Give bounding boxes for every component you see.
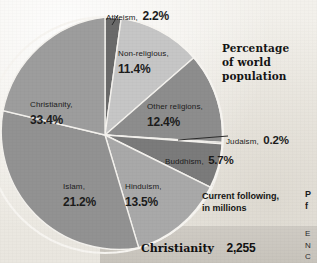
- slice-percent-non-religious: 11.4%: [118, 62, 150, 76]
- chart-heading-line-3: population: [222, 70, 289, 84]
- clipped-row-3: C: [305, 251, 317, 262]
- table-note-line-2: in millions: [202, 202, 279, 214]
- clipped-header-line-2: f: [305, 201, 317, 213]
- slice-name-judaism: Judaism: [226, 137, 257, 146]
- infographic-page: Atheism, 2.2% Non-religious, 11.4% Chris…: [0, 0, 317, 263]
- slice-percent-atheism: 2.2%: [142, 9, 169, 23]
- table-note-line-1: Current following,: [202, 190, 279, 202]
- slice-name-christianity: Christianity: [30, 100, 70, 109]
- chart-heading: Percentage of world population: [222, 42, 289, 84]
- slice-name-atheism: Atheism: [106, 13, 136, 22]
- slice-name-other-religions: Other religions: [147, 102, 201, 111]
- slice-name-hinduism: Hinduism: [125, 182, 159, 191]
- slice-percent-judaism: 0.2%: [263, 134, 288, 146]
- slice-percent-other-religions: 12.4%: [147, 115, 180, 129]
- slice-percent-islam: 21.2%: [63, 195, 96, 209]
- slice-label-atheism: Atheism, 2.2%: [106, 6, 169, 23]
- table-row-value: 2,255: [226, 241, 255, 255]
- table-row-name: Christianity: [141, 242, 214, 255]
- slice-percent-buddhism: 5.7%: [208, 154, 233, 166]
- slice-name-buddhism: Buddhism: [165, 157, 201, 166]
- chart-heading-line-2: of world: [222, 56, 289, 70]
- slice-label-non-religious: Non-religious, 11.4%: [118, 42, 169, 77]
- pie-slices: [0, 17, 223, 253]
- slice-name-non-religious: Non-religious: [118, 49, 166, 58]
- slice-name-islam: Islam: [63, 182, 83, 191]
- slice-percent-christianity: 33.4%: [30, 113, 63, 127]
- slice-label-other-religions: Other religions, 12.4%: [147, 95, 203, 130]
- slice-label-christianity: Christianity, 33.4%: [30, 93, 73, 128]
- table-column-note: Current following, in millions: [202, 190, 279, 214]
- slice-label-hinduism: Hinduism, 13.5%: [125, 175, 161, 210]
- clipped-column-header: P f: [305, 189, 317, 213]
- clipped-table-rows: E N C: [305, 228, 317, 262]
- slice-label-islam: Islam, 21.2%: [63, 175, 96, 210]
- table-row: Christianity 2,255: [141, 238, 255, 256]
- slice-label-buddhism: Buddhism, 5.7%: [165, 150, 234, 167]
- clipped-row-2: N: [305, 240, 317, 252]
- clipped-header-line-1: P: [305, 189, 317, 201]
- slice-label-judaism: Judaism, 0.2%: [226, 130, 289, 147]
- slice-percent-hinduism: 13.5%: [125, 195, 158, 209]
- clipped-row-1: E: [305, 228, 317, 240]
- chart-heading-line-1: Percentage: [222, 42, 289, 56]
